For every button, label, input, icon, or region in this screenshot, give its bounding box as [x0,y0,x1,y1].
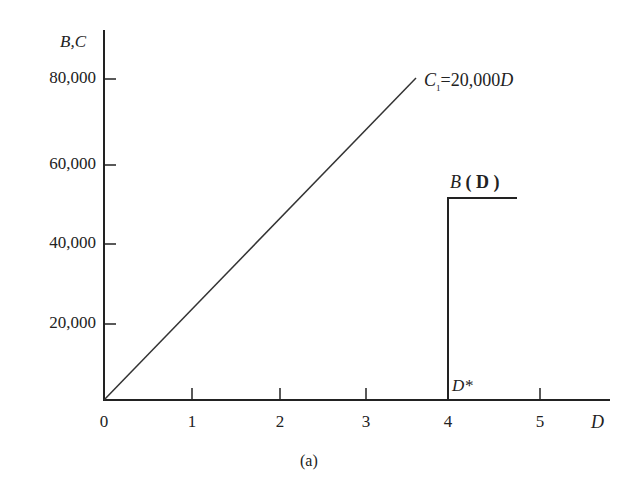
x-tick-label: 0 [94,412,114,432]
x-axis-label: D [591,412,604,433]
cost-line-label: C1=20,000D [424,70,513,93]
y-axis-label: B,C [60,32,86,52]
y-tick-label: 60,000 [16,154,96,174]
cost-line-c1 [104,78,416,400]
y-tick-label: 20,000 [16,313,96,333]
x-tick-label: 4 [438,412,458,432]
benefit-label: B ( D ) [450,172,500,193]
y-tick-label: 80,000 [16,68,96,88]
x-tick-label: 1 [182,412,202,432]
x-tick-label: 2 [270,412,290,432]
y-ticks [104,79,116,324]
figure-caption: (a) [300,452,318,470]
d-star-annotation: D* [452,376,473,396]
x-ticks [192,388,540,400]
y-tick-label: 40,000 [16,233,96,253]
x-tick-label: 5 [530,412,550,432]
x-tick-label: 3 [356,412,376,432]
benefit-step-b [448,198,517,400]
